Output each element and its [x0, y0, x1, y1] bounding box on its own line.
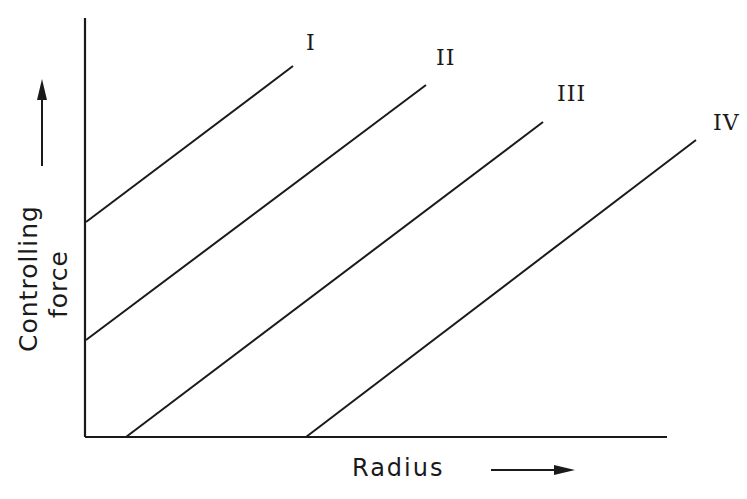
curve-ii: [86, 85, 426, 340]
x-axis-label: Radius: [352, 454, 444, 482]
curve-label-ii: II: [436, 45, 455, 70]
curve-i: [86, 66, 293, 222]
arrow-up-icon: [37, 79, 47, 166]
curve-label-iv: IV: [713, 110, 740, 135]
curve-iv: [306, 140, 696, 437]
curve-label-iii: III: [557, 81, 586, 106]
y-axis-label-line2: force: [44, 250, 73, 318]
curve-label-i: I: [306, 30, 316, 55]
arrow-right-icon: [491, 465, 575, 475]
controlling-force-diagram: [0, 0, 747, 499]
curve-iii: [126, 122, 543, 437]
y-axis-label-line1: Controlling: [14, 205, 43, 352]
